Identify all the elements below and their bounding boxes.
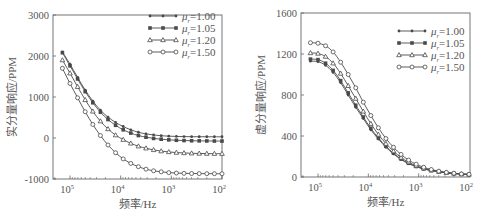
marker-circle-icon xyxy=(83,110,87,114)
marker-triangle-icon xyxy=(121,137,126,141)
marker-circle-icon xyxy=(331,50,335,54)
marker-square-icon xyxy=(182,139,186,143)
marker-circle-icon xyxy=(397,65,401,69)
y-tick-label: -1000 xyxy=(25,174,50,185)
marker-circle-icon xyxy=(212,172,216,176)
series-line xyxy=(310,59,469,174)
marker-circle-icon xyxy=(121,157,125,161)
marker-square-icon xyxy=(152,137,156,141)
marker-dot-icon xyxy=(152,134,155,137)
marker-triangle-icon xyxy=(113,133,118,137)
legend-label: μr=1.50 xyxy=(430,61,465,75)
marker-dot-icon xyxy=(129,128,132,131)
real-component-chart: -10000100020003000105104103102频率/Hz实分量响应… xyxy=(0,0,240,213)
marker-square-icon xyxy=(205,139,209,143)
marker-triangle-icon xyxy=(60,58,65,62)
marker-circle-icon xyxy=(76,96,80,100)
y-axis-label: 实分量响应/PPM xyxy=(5,57,18,137)
marker-circle-icon xyxy=(197,172,201,176)
marker-circle-icon xyxy=(152,169,156,173)
marker-square-icon xyxy=(369,127,373,131)
real-component-plot: -10000100020003000105104103102频率/Hz实分量响应… xyxy=(0,0,240,213)
marker-square-icon xyxy=(114,123,118,127)
marker-circle-icon xyxy=(190,172,194,176)
marker-square-icon xyxy=(129,131,133,135)
marker-circle-icon xyxy=(220,172,224,176)
marker-triangle-icon xyxy=(75,84,80,88)
series-line xyxy=(62,52,222,137)
marker-circle-icon xyxy=(437,169,441,173)
marker-square-icon xyxy=(174,26,178,30)
marker-square-icon xyxy=(213,139,217,143)
x-tick-label: 103 xyxy=(409,181,423,193)
marker-square-icon xyxy=(309,57,313,61)
marker-triangle-icon xyxy=(83,97,88,101)
marker-dot-icon xyxy=(424,30,427,33)
marker-dot-icon xyxy=(145,133,148,136)
marker-circle-icon xyxy=(148,50,152,54)
marker-dot-icon xyxy=(137,131,140,134)
legend-item: μr=1.50 xyxy=(397,61,465,75)
marker-circle-icon xyxy=(459,172,463,176)
y-tick-label: 1200 xyxy=(276,49,297,60)
marker-square-icon xyxy=(161,26,165,30)
y-axis-label: 虚分量响应/PPM xyxy=(254,55,267,135)
marker-square-icon xyxy=(175,138,179,142)
x-tick-label: 105 xyxy=(60,183,74,195)
marker-circle-icon xyxy=(369,114,373,118)
marker-square-icon xyxy=(144,135,148,139)
series-line xyxy=(62,68,222,173)
marker-dot-icon xyxy=(183,135,186,138)
marker-circle-icon xyxy=(167,171,171,175)
series-line xyxy=(62,53,222,141)
marker-dot-icon xyxy=(198,135,201,138)
legend-item: μr=1.50 xyxy=(148,46,216,60)
marker-square-icon xyxy=(68,64,72,68)
marker-square-icon xyxy=(167,138,171,142)
marker-square-icon xyxy=(61,51,65,55)
series-dot xyxy=(309,60,470,176)
marker-circle-icon xyxy=(205,172,209,176)
marker-square-icon xyxy=(197,139,201,143)
marker-circle-icon xyxy=(114,151,118,155)
x-tick-label: 105 xyxy=(308,181,322,193)
marker-square-icon xyxy=(76,77,80,81)
marker-circle-icon xyxy=(452,171,456,175)
marker-dot-icon xyxy=(205,135,208,138)
marker-circle-icon xyxy=(410,65,414,69)
marker-square-icon xyxy=(324,61,328,65)
marker-circle-icon xyxy=(106,143,110,147)
marker-circle-icon xyxy=(324,44,328,48)
marker-circle-icon xyxy=(339,60,343,64)
marker-square-icon xyxy=(423,41,427,45)
marker-square-icon xyxy=(121,128,125,132)
y-tick-label: 0 xyxy=(292,172,297,183)
x-tick-label: 104 xyxy=(358,181,373,193)
marker-circle-icon xyxy=(136,165,140,169)
marker-circle-icon xyxy=(392,145,396,149)
marker-circle-icon xyxy=(423,65,427,69)
marker-dot-icon xyxy=(122,125,125,128)
y-tick-label: 1000 xyxy=(28,92,49,103)
marker-dot-icon xyxy=(398,30,401,33)
marker-square-icon xyxy=(190,139,194,143)
y-tick-label: 1600 xyxy=(276,8,297,19)
marker-circle-icon xyxy=(376,126,380,130)
marker-circle-icon xyxy=(361,100,365,104)
marker-square-icon xyxy=(346,91,350,95)
marker-square-icon xyxy=(316,58,320,62)
legend-label: μr=1.50 xyxy=(181,46,216,60)
marker-circle-icon xyxy=(346,73,350,77)
marker-square-icon xyxy=(83,90,87,94)
marker-circle-icon xyxy=(68,81,72,85)
marker-dot-icon xyxy=(175,135,178,138)
marker-square-icon xyxy=(137,134,141,138)
x-axis-label: 频率/Hz xyxy=(367,195,405,208)
x-tick-label: 104 xyxy=(111,183,125,195)
marker-circle-icon xyxy=(91,122,95,126)
legend: μr=1.00μr=1.05μr=1.20μr=1.50 xyxy=(397,25,465,75)
marker-triangle-icon xyxy=(353,96,358,100)
marker-circle-icon xyxy=(161,50,165,54)
marker-square-icon xyxy=(106,118,110,122)
y-tick-label: 2000 xyxy=(28,51,49,62)
